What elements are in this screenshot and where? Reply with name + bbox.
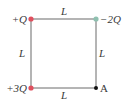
side-label-top: L: [60, 5, 67, 17]
charge-bottom-left: [28, 85, 33, 90]
charge-top-left: [28, 16, 33, 21]
charge-square-diagram: +Q −2Q +3Q A L L L L: [0, 0, 129, 101]
label-top-right: −2Q: [100, 13, 121, 25]
label-bottom-left: +3Q: [6, 82, 27, 94]
square-outline: [31, 19, 96, 88]
point-a: [94, 86, 98, 90]
side-label-left: L: [18, 47, 25, 59]
side-label-bottom: L: [60, 89, 67, 101]
side-label-right: L: [98, 47, 105, 59]
charge-top-right: [93, 16, 98, 21]
label-point-a: A: [100, 82, 108, 94]
label-top-left: +Q: [12, 13, 27, 25]
